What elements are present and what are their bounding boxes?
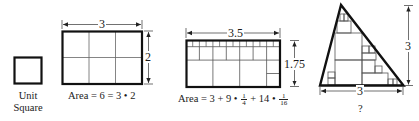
triangle-base-label: 3 xyxy=(356,85,364,97)
rect1-height-label: 2 xyxy=(144,51,152,63)
area-diagram: Unit Square 3 2 Area = 6 = 3 • 2 3.5 1.7… xyxy=(0,0,419,121)
rect2-area-prefix: Area = 3 + 9 • xyxy=(178,93,238,104)
rect1-width-label: 3 xyxy=(98,18,106,30)
rect1-area-formula: Area = 6 = 3 • 2 xyxy=(68,90,135,102)
unit-label-line2: Square xyxy=(8,102,48,114)
rect-3-by-2 xyxy=(62,20,153,84)
rect2-area-mid: + 14 • xyxy=(250,93,275,104)
unit-label-line1: Unit xyxy=(10,90,46,102)
triangle-area-unknown: ? xyxy=(358,103,363,115)
fraction-one-quarter: 14 xyxy=(241,93,247,106)
rect2-height-label: 1.75 xyxy=(283,58,306,70)
rect2-area-formula: Area = 3 + 9 • 14 + 14 • 116 xyxy=(178,93,289,106)
unit-square xyxy=(15,58,42,84)
triangle-height-label: 3 xyxy=(404,40,412,52)
fraction-one-sixteenth: 116 xyxy=(279,93,288,106)
triangle xyxy=(320,5,413,95)
rect2-width-label: 3.5 xyxy=(227,27,244,39)
